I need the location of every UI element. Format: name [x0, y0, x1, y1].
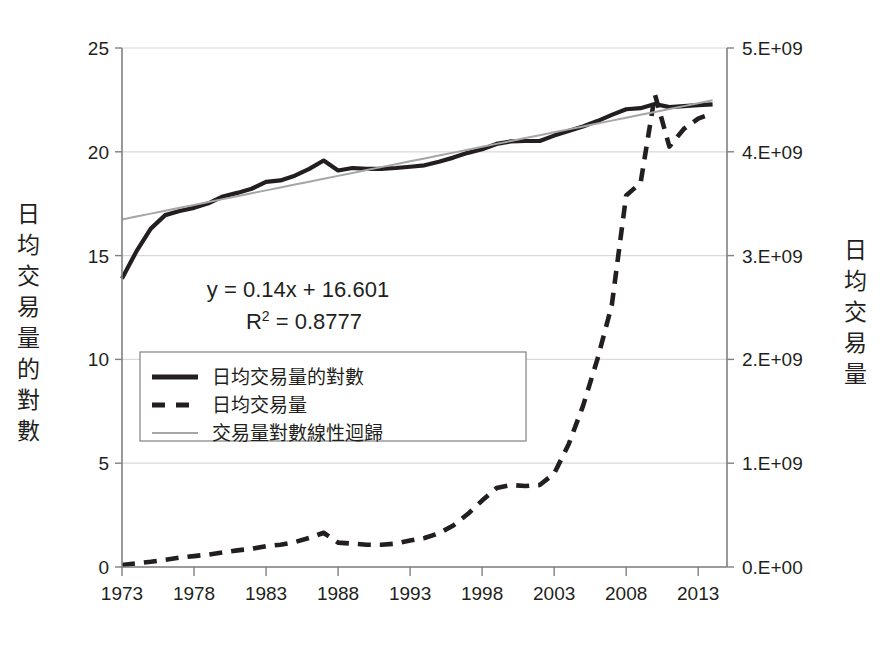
- legend-label: 交易量對數線性迴歸: [212, 422, 383, 444]
- x-tick-label: 1993: [389, 583, 431, 604]
- y2-tick-label: 4.E+09: [742, 142, 803, 163]
- chart-figure: 0510152025 0.E+001.E+092.E+093.E+094.E+0…: [0, 0, 883, 645]
- y-axis-title-char: 量: [17, 325, 40, 351]
- x-axis-tick-labels: 197319781983198819931998200320082013: [101, 583, 719, 604]
- r-squared-prefix: R: [246, 309, 262, 334]
- y-axis-title-char: 的: [17, 356, 40, 382]
- y2-tick-label: 5.E+09: [742, 38, 803, 59]
- y-tick-label: 10: [88, 349, 109, 370]
- y2-axis-title-char: 交: [844, 299, 867, 325]
- x-tick-label: 1983: [245, 583, 287, 604]
- y-tick-label: 25: [88, 38, 109, 59]
- r-squared-value: = 0.8777: [270, 309, 362, 334]
- x-tick-label: 2013: [677, 583, 719, 604]
- y-axis-title-char: 交: [17, 263, 40, 289]
- y2-tick-label: 3.E+09: [742, 246, 803, 267]
- x-tick-label: 1998: [461, 583, 503, 604]
- y-tick-label: 0: [98, 557, 109, 578]
- y-axis-title-char: 均: [17, 232, 40, 258]
- y2-axis-title-char: 易: [844, 330, 867, 356]
- chart-background: [0, 0, 883, 645]
- x-tick-label: 1988: [317, 583, 359, 604]
- legend-label: 日均交易量: [212, 394, 307, 416]
- x-tick-label: 2003: [533, 583, 575, 604]
- y-tick-label: 5: [98, 453, 109, 474]
- x-tick-label: 1978: [173, 583, 215, 604]
- y2-tick-label: 1.E+09: [742, 453, 803, 474]
- y2-axis-title: 日均交易量: [844, 237, 867, 387]
- y2-tick-label: 0.E+00: [742, 557, 803, 578]
- chart-svg: 0510152025 0.E+001.E+092.E+093.E+094.E+0…: [0, 0, 883, 645]
- y-tick-label: 20: [88, 142, 109, 163]
- y2-axis-title-char: 均: [844, 268, 867, 294]
- y2-axis-title-char: 日: [844, 237, 867, 263]
- y2-axis-title-char: 量: [844, 361, 867, 387]
- y-axis-title-char: 對: [17, 387, 40, 413]
- y-axis-title-char: 日: [17, 201, 40, 227]
- legend-label: 日均交易量的對數: [212, 366, 364, 388]
- y-axis-title-char: 數: [17, 418, 40, 444]
- chart-legend: 日均交易量的對數日均交易量交易量對數線性迴歸: [140, 352, 526, 444]
- x-tick-label: 1973: [101, 583, 143, 604]
- y2-tick-label: 2.E+09: [742, 349, 803, 370]
- x-tick-label: 2008: [605, 583, 647, 604]
- regression-equation-text: y = 0.14x + 16.601: [207, 277, 389, 302]
- y-axis-title-char: 易: [17, 294, 40, 320]
- r-squared-superscript: 2: [262, 308, 270, 324]
- y-tick-label: 15: [88, 246, 109, 267]
